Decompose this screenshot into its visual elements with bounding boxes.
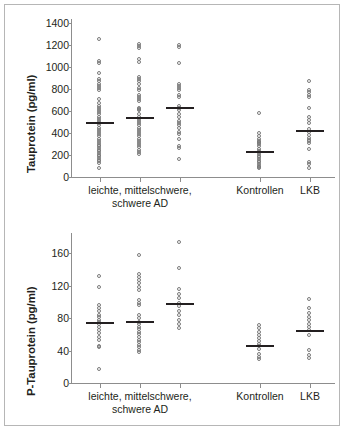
y-tick-label: 120: [25, 281, 69, 291]
y-tick-label: 600: [25, 106, 69, 116]
data-point: [307, 147, 311, 151]
data-point: [137, 88, 141, 92]
y-tick-label: 0: [25, 172, 69, 182]
data-point: [137, 253, 141, 257]
x-axis-group-label: leichte, mittelschwere,schwere AD: [65, 390, 215, 416]
data-point: [137, 46, 141, 50]
x-tick-mark: [260, 178, 261, 182]
data-point: [177, 45, 181, 49]
data-point: [97, 345, 101, 349]
data-point: [137, 108, 141, 112]
median-line: [246, 151, 274, 153]
chart-panel-p-tauprotein: P-Tauprotein (pg/ml) 04080120160 leichte…: [5, 216, 339, 425]
data-point: [257, 166, 261, 170]
data-point: [177, 61, 181, 65]
x-axis-line-top: [71, 177, 335, 178]
x-tick-mark: [180, 178, 181, 182]
data-point: [137, 288, 141, 292]
data-point: [137, 82, 141, 86]
data-point: [97, 37, 101, 41]
y-tick-label: 200: [25, 150, 69, 160]
median-line: [126, 117, 154, 119]
data-point: [177, 137, 181, 141]
data-point: [97, 367, 101, 371]
x-axis-group-label: leichte, mittelschwere,schwere AD: [65, 184, 215, 210]
median-line: [166, 107, 194, 109]
data-point: [177, 95, 181, 99]
median-line: [296, 330, 324, 332]
data-point: [97, 285, 101, 289]
y-axis-line-bottom: [71, 233, 72, 383]
data-point: [137, 303, 141, 307]
data-point: [307, 297, 311, 301]
data-point: [177, 309, 181, 313]
y-tick-label: 160: [25, 248, 69, 258]
figure-frame: Tauprotein (pg/ml) 020040060080010001200…: [4, 4, 340, 426]
y-tick-label: 1000: [25, 62, 69, 72]
data-point: [307, 79, 311, 83]
data-point: [177, 240, 181, 244]
data-point: [97, 88, 101, 92]
data-point: [97, 338, 101, 342]
x-axis-group-label: LKB: [275, 390, 344, 403]
data-point: [307, 306, 311, 310]
x-tick-mark: [180, 384, 181, 388]
y-tick-label: 0: [25, 378, 69, 388]
data-point: [257, 111, 261, 115]
x-tick-mark: [140, 384, 141, 388]
data-point: [137, 152, 141, 156]
data-point: [177, 88, 181, 92]
median-line: [296, 130, 324, 132]
y-axis-ticks-top: 0200400600800100012001400: [21, 5, 69, 216]
chart-panel-tauprotein: Tauprotein (pg/ml) 020040060080010001200…: [5, 5, 339, 216]
data-point: [177, 313, 181, 317]
data-point: [177, 266, 181, 270]
data-point: [307, 95, 311, 99]
data-point: [177, 115, 181, 119]
y-tick-label: 1400: [25, 18, 69, 28]
data-point: [177, 322, 181, 326]
y-tick-label: 80: [25, 313, 69, 323]
data-point: [307, 141, 311, 145]
data-point: [177, 126, 181, 130]
median-line: [86, 322, 114, 324]
y-axis-ticks-bottom: 04080120160: [21, 216, 69, 425]
data-point: [307, 166, 311, 170]
x-axis-group-label: LKB: [275, 184, 344, 197]
y-tick-label: 800: [25, 84, 69, 94]
data-point: [177, 296, 181, 300]
data-point: [177, 287, 181, 291]
data-point: [97, 71, 101, 75]
data-point: [307, 333, 311, 337]
x-tick-mark: [100, 384, 101, 388]
x-tick-mark: [260, 384, 261, 388]
y-axis-line-top: [71, 19, 72, 177]
data-point: [177, 326, 181, 330]
data-point: [137, 350, 141, 354]
data-point: [307, 348, 311, 352]
data-point: [97, 274, 101, 278]
x-tick-mark: [140, 178, 141, 182]
median-line: [246, 345, 274, 347]
data-point: [97, 166, 101, 170]
scatter-plot-tauprotein: Tauprotein (pg/ml) 020040060080010001200…: [5, 5, 339, 216]
data-point: [97, 97, 101, 101]
data-point: [137, 99, 141, 103]
median-line: [126, 321, 154, 323]
data-point: [177, 132, 181, 136]
data-point: [257, 357, 261, 361]
data-point: [177, 146, 181, 150]
x-tick-mark: [310, 178, 311, 182]
data-point: [97, 161, 101, 165]
data-point: [307, 121, 311, 125]
data-point: [307, 356, 311, 360]
data-point: [177, 157, 181, 161]
data-point: [97, 61, 101, 65]
median-line: [166, 303, 194, 305]
y-tick-label: 40: [25, 346, 69, 356]
x-axis-line-bottom: [71, 383, 335, 384]
y-tick-label: 400: [25, 128, 69, 138]
median-line: [86, 122, 114, 124]
data-point: [257, 347, 261, 351]
scatter-plot-p-tauprotein: P-Tauprotein (pg/ml) 04080120160 leichte…: [5, 216, 339, 425]
